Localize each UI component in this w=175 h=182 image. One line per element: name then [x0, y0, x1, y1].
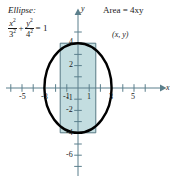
figure-container: Ellipse: x2 32 + y2 42 = 1 Area = 4xy (x… [0, 0, 175, 182]
xtick-label-3: 3 [109, 93, 113, 101]
ytick-label-minus4: -4 [66, 129, 73, 137]
fraction-denominator-4: 42 [25, 28, 34, 39]
fraction-numerator-y: y2 [25, 18, 34, 28]
fraction-numerator-x: x2 [8, 18, 17, 28]
fraction-x-over-3: x2 32 [8, 18, 17, 39]
xtick-label-minus5: -5 [19, 93, 26, 101]
ytick-label-minus2: -2 [66, 106, 73, 114]
fraction-y-over-4: y2 42 [25, 18, 34, 39]
xtick-label-5: 5 [131, 93, 135, 101]
ellipse-caption: Ellipse: [8, 6, 36, 15]
x-axis-label: x [166, 84, 170, 92]
xtick-label-1: 1 [87, 93, 91, 101]
fraction-denominator-3: 32 [8, 28, 17, 39]
ytick-label-4: 4 [69, 38, 73, 46]
ellipse-equation: x2 32 + y2 42 = 1 [8, 18, 47, 39]
plus-sign: + [19, 23, 24, 33]
ytick-label-minus6: -6 [66, 151, 73, 159]
ytick-label-minus1: -1 [66, 94, 73, 102]
equals-one: = 1 [36, 23, 48, 33]
ytick-label-2: 2 [69, 61, 73, 69]
point-label: (x, y) [112, 31, 128, 39]
xtick-label-minus3: -3 [41, 93, 48, 101]
y-axis-label: y [81, 5, 85, 13]
area-caption: Area = 4xy [103, 6, 144, 15]
